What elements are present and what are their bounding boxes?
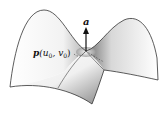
saddle-surface: a p(u0, v0) — [0, 0, 167, 119]
saddle-diagram: a p(u0, v0) — [0, 0, 167, 119]
point-arg-u: (u — [39, 48, 49, 58]
normal-vector-label: a — [83, 16, 89, 27]
point-arg-v: , v — [52, 48, 63, 58]
point-close: ) — [67, 48, 71, 58]
